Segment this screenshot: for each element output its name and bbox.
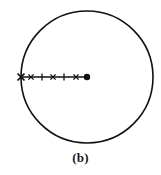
marker-dot-center [84,74,90,80]
figure-caption: (b) [0,150,161,166]
center-dot [84,74,90,80]
figure-container: (b) [0,0,161,175]
geometric-diagram [0,0,161,175]
